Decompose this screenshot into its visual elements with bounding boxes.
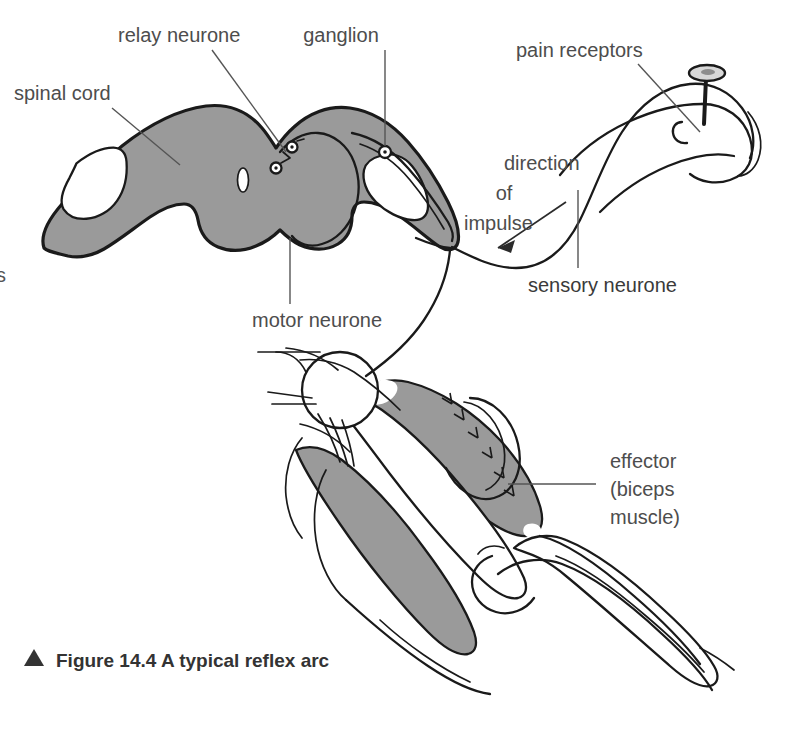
label-spinal-cord: spinal cord bbox=[14, 82, 111, 104]
label-direction-line2: of bbox=[496, 182, 513, 204]
label-sensory-neurone: sensory neurone bbox=[528, 274, 677, 296]
humeral-head bbox=[302, 352, 378, 428]
label-ganglion: ganglion bbox=[303, 24, 379, 46]
label-direction-line3: impulse bbox=[464, 212, 533, 234]
label-direction-line1: direction bbox=[504, 152, 580, 174]
reflex-arc-illustration: spinal cord relay neurone ganglion pain … bbox=[0, 0, 788, 743]
caption-text: Figure 14.4 A typical reflex arc bbox=[56, 650, 330, 671]
label-relay-neurone: relay neurone bbox=[118, 24, 240, 46]
label-effector-line1: effector bbox=[610, 450, 677, 472]
label-effector-line2: (biceps bbox=[610, 478, 674, 500]
ganglion-node bbox=[379, 146, 391, 158]
figure-caption: Figure 14.4 A typical reflex arc bbox=[24, 649, 330, 671]
reflex-arc-figure: spinal cord relay neurone ganglion pain … bbox=[0, 0, 788, 743]
label-motor-neurone: motor neurone bbox=[252, 309, 382, 331]
margin-bleed-text: s bbox=[0, 264, 6, 286]
central-canal bbox=[238, 168, 249, 192]
label-pain-receptors: pain receptors bbox=[516, 39, 643, 61]
label-effector-line3: muscle) bbox=[610, 506, 680, 528]
